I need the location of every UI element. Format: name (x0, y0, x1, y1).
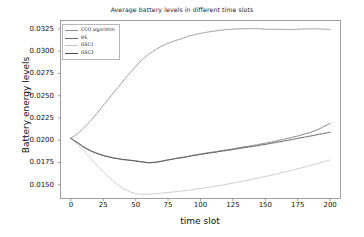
legend-item-label: GSC1 (81, 43, 94, 48)
legend-item-label: RS (81, 36, 87, 41)
plot-area (0, 0, 364, 237)
legend-item[interactable]: RS (65, 35, 116, 43)
legend-item[interactable]: GSC1 (65, 42, 116, 50)
legend-color-swatch (65, 30, 78, 31)
legend-item[interactable]: GSC2 (65, 50, 116, 58)
legend-item-label: CCO algorithm (81, 28, 115, 33)
legend-color-swatch (65, 45, 78, 46)
series-line-rs (71, 123, 330, 162)
chart-figure: Average battery levels in different time… (0, 0, 364, 237)
legend-color-swatch (65, 53, 78, 54)
legend-item-label: GSC2 (81, 51, 94, 56)
series-line-gsc2 (71, 132, 330, 163)
chart-legend: CCO algorithmRSGSC1GSC2 (62, 24, 120, 60)
series-line-gsc1 (71, 138, 330, 194)
legend-color-swatch (65, 38, 78, 39)
legend-item[interactable]: CCO algorithm (65, 27, 116, 35)
